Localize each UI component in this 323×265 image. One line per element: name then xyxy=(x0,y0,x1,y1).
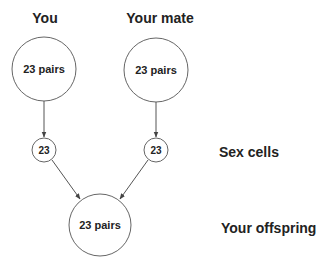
gamete-mate: 23 xyxy=(144,138,168,162)
title-your-mate: Your mate xyxy=(126,10,194,26)
cell-label: 23 pairs xyxy=(135,64,177,76)
arrow-gamete-mate-to-offspring xyxy=(120,160,148,199)
gamete-you: 23 xyxy=(32,138,56,162)
row-label-sex-cells: Sex cells xyxy=(219,144,279,160)
chromosome-diagram: You Your mate 23 pairs 23 pairs 23 23 23… xyxy=(0,0,323,265)
cell-label: 23 pairs xyxy=(79,219,121,231)
title-you: You xyxy=(32,10,57,26)
offspring-cell: 23 pairs xyxy=(69,194,131,256)
cell-label: 23 pairs xyxy=(23,63,65,75)
gamete-label: 23 xyxy=(38,145,50,156)
parent-cell-mate: 23 pairs xyxy=(124,38,188,102)
row-label-offspring: Your offspring xyxy=(221,220,316,236)
gamete-label: 23 xyxy=(150,145,162,156)
arrow-gamete-you-to-offspring xyxy=(52,160,80,199)
parent-cell-you: 23 pairs xyxy=(12,37,76,101)
